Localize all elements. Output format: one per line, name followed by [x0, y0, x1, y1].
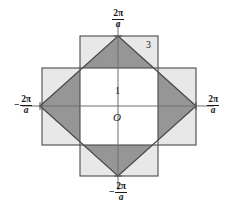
zone-1-label: 1 — [115, 86, 120, 96]
axis-label-left-denominator: a — [20, 106, 32, 116]
axis-label-left-numerator: 2π — [20, 95, 32, 106]
origin-label: O — [113, 112, 121, 123]
axis-label-bottom-sign: − — [109, 187, 115, 197]
axis-label-bottom: − 2π a — [98, 182, 138, 202]
axis-label-right-denominator: a — [207, 106, 219, 116]
axis-label-left-sign: − — [14, 100, 20, 110]
axis-label-top-denominator: a — [112, 20, 124, 30]
axis-label-right: 2π a — [198, 95, 228, 115]
axis-label-top: 2π a — [98, 9, 138, 29]
axis-label-left: − 2π a — [6, 95, 40, 115]
coordinate-axes — [22, 22, 214, 190]
zone-2-label: 2 — [114, 51, 118, 59]
zone-3-label: 3 — [146, 40, 151, 50]
axis-label-bottom-numerator: 2π — [115, 182, 127, 193]
axis-label-right-numerator: 2π — [207, 95, 219, 106]
axis-label-top-numerator: 2π — [112, 9, 124, 20]
axis-label-bottom-denominator: a — [115, 193, 127, 203]
brillouin-zone-figure: 1 2 3 O 2π a − 2π a − 2π a 2π a — [0, 0, 231, 212]
